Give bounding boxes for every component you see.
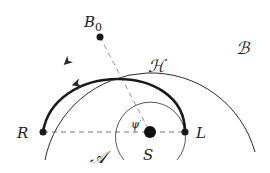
label-r: R <box>16 124 28 142</box>
outer-arc-arrow <box>67 50 80 62</box>
point-s <box>144 126 156 138</box>
label-outer-region: ℬ <box>236 38 251 58</box>
label-s: S <box>143 146 153 164</box>
label-l: L <box>195 124 206 142</box>
point-b0 <box>97 34 104 41</box>
diagram-canvas: B0 R L S ℬ ℋ 𝒜 ψ <box>0 0 270 173</box>
point-r <box>40 129 47 136</box>
label-psi: ψ <box>131 118 140 131</box>
dashed-line-b0-s <box>100 37 150 132</box>
label-h-curve: ℋ <box>148 56 168 76</box>
h-curve <box>43 79 185 132</box>
point-l <box>182 129 189 136</box>
label-inner-region: 𝒜 <box>90 147 111 167</box>
label-b0: B0 <box>83 13 102 34</box>
